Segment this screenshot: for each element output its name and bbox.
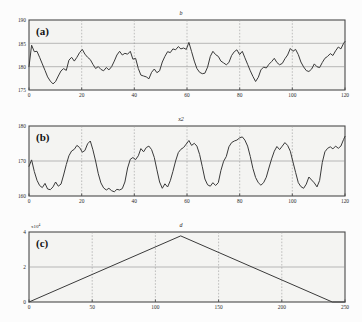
panel-a-title: b: [180, 10, 183, 16]
panel-c-xtick-2: 100: [151, 304, 159, 310]
panel-a-ytick-2: 180: [18, 64, 26, 70]
panel-c-xtick-3: 150: [215, 304, 223, 310]
panel-a-ytick-1: 185: [18, 41, 26, 47]
panel-b-ytick-0: 180: [18, 123, 26, 129]
panel-b: x2 0 20 40 60: [0, 108, 362, 214]
panel-b-xtick-4: 80: [237, 198, 243, 204]
figure-container: b 0 20 40: [0, 0, 362, 322]
panel-c-exponent: x104: [31, 223, 41, 229]
panel-c-plot: d x104 0 50 100 150 200: [0, 214, 362, 320]
panel-a-xtick-3: 60: [184, 92, 190, 98]
panel-c-ytick-0: 4: [23, 229, 26, 235]
panel-b-xtick-6: 120: [341, 198, 349, 204]
panel-b-ytick-1: 170: [18, 158, 26, 164]
panel-b-title: x2: [177, 116, 184, 122]
panel-a-ytick-0: 190: [18, 17, 26, 23]
panel-b-plot: x2 0 20 40 60: [0, 108, 362, 214]
panel-c-xtick-1: 50: [90, 304, 96, 310]
panel-a: b 0 20 40: [0, 2, 362, 108]
panel-a-plot: b 0 20 40: [0, 2, 362, 108]
panel-a-ytick-3: 175: [18, 87, 26, 93]
panel-a-xtick-5: 100: [288, 92, 296, 98]
panel-b-xtick-5: 100: [288, 198, 296, 204]
panel-a-xtick-4: 80: [237, 92, 243, 98]
panel-a-xtick-2: 40: [132, 92, 138, 98]
panel-c-xtick-0: 0: [28, 304, 31, 310]
panel-a-tag: (a): [36, 25, 49, 38]
panel-c-xtick-4: 200: [278, 304, 286, 310]
panel-b-xtick-1: 20: [79, 198, 85, 204]
panel-c-ytick-2: 0: [23, 299, 26, 305]
panel-a-xtick-0: 0: [28, 92, 31, 98]
panel-c: d x104 0 50 100 150 200: [0, 214, 362, 320]
panel-c-ytick-1: 2: [23, 264, 26, 270]
panel-a-xtick-6: 120: [341, 92, 349, 98]
panel-b-ytick-2: 160: [18, 193, 26, 199]
panel-b-tag: (b): [36, 131, 50, 144]
panel-c-tag: (c): [36, 237, 49, 250]
panel-b-xtick-3: 60: [184, 198, 190, 204]
panel-b-xtick-0: 0: [28, 198, 31, 204]
panel-c-title: d: [180, 222, 184, 228]
panel-b-xtick-2: 40: [132, 198, 138, 204]
panel-a-xtick-1: 20: [79, 92, 85, 98]
panel-c-xtick-5: 250: [341, 304, 349, 310]
